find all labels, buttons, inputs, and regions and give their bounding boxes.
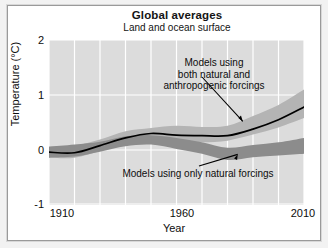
y-tick-label-2: 2	[22, 34, 44, 46]
x-axis-title: Year	[0, 222, 328, 234]
annotation-line-1: Models using only natural forcings	[98, 168, 298, 180]
natural-forcings-annotation: Models using only natural forcings	[98, 168, 298, 180]
chart-subtitle: Land and ocean surface	[0, 22, 328, 33]
figure-panel: Global averages Land and ocean surface 2…	[0, 0, 328, 248]
y-tick-label-1: 1	[22, 89, 44, 101]
annotation-line-2: both natural and	[150, 69, 278, 81]
annotation-line-3: anthropogenic forcings	[150, 80, 278, 92]
x-tick-label-1910: 1910	[35, 207, 89, 219]
anthropogenic-forcings-annotation: Models using both natural and anthropoge…	[150, 57, 278, 92]
y-tick-label-0: 0	[22, 144, 44, 156]
chart-title: Global averages	[0, 9, 328, 21]
x-tick-label-2010: 2010	[276, 207, 328, 219]
x-tick-label-1960: 1960	[155, 207, 209, 219]
y-axis-title: Temperature (°C)	[9, 24, 21, 144]
annotation-line-1: Models using	[150, 57, 278, 69]
